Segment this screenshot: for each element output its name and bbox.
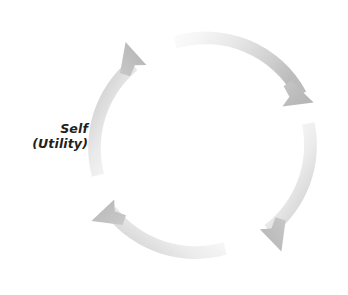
- arrow-segment-left: [88, 42, 146, 177]
- arrow-segment-bottom: [91, 200, 226, 259]
- arrow-segment-top: [173, 31, 313, 106]
- arrow-segment-left-band: [88, 60, 137, 177]
- arrow-segment-right: [260, 122, 317, 251]
- self-utility-label-line-2: (Utility): [8, 137, 88, 152]
- self-utility-label-line-1: Self: [8, 122, 88, 137]
- self-utility-label: Self (Utility): [8, 122, 88, 152]
- figure-root: Self (Utility): [0, 0, 348, 295]
- arrow-head-bottom-left-icon: [91, 200, 126, 225]
- arrow-segment-right-band: [265, 122, 317, 236]
